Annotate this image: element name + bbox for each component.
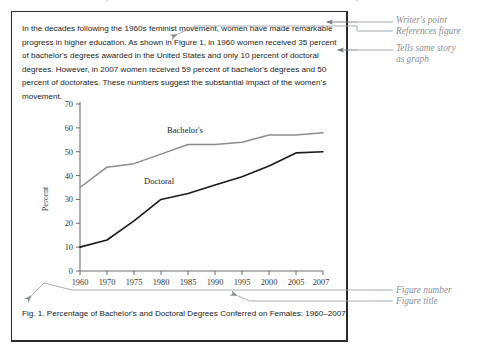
svg-text:1990: 1990: [207, 278, 224, 287]
figure-header-label: FIGURE 1-1 Example of a Student Text wit…: [4, 0, 370, 1]
series-label-bachelors: Bachelor's: [167, 125, 204, 135]
svg-text:2007: 2007: [313, 278, 330, 287]
svg-text:30: 30: [65, 195, 73, 204]
series-label-doctoral: Doctoral: [144, 176, 175, 186]
figure-header-strip: FIGURE 1-1 Example of a Student Text wit…: [0, 0, 482, 9]
svg-text:1980: 1980: [153, 278, 170, 287]
body-paragraph: In the decades following the 1960s femin…: [22, 22, 340, 104]
svg-text:10: 10: [65, 243, 73, 252]
svg-text:1960: 1960: [72, 278, 89, 287]
svg-text:1975: 1975: [126, 278, 143, 287]
annotation-figure-number: Figure number: [396, 285, 452, 296]
svg-text:60: 60: [65, 124, 73, 133]
annotation-tells-same-story: Tells same story as graph: [396, 43, 456, 66]
screenshot-root: FIGURE 1-1 Example of a Student Text wit…: [0, 0, 482, 352]
svg-text:2005: 2005: [288, 278, 305, 287]
y-axis-title: Percent: [41, 186, 50, 211]
figure-chart: 0 10 20 30 40 50 60 70 Per: [34, 94, 334, 292]
svg-text:40: 40: [65, 172, 73, 181]
svg-text:20: 20: [65, 219, 73, 228]
line-chart-svg: 0 10 20 30 40 50 60 70 Per: [34, 94, 334, 292]
y-axis-ticks: 0 10 20 30 40 50 60 70: [65, 100, 80, 276]
svg-text:50: 50: [65, 148, 73, 157]
svg-text:1970: 1970: [99, 278, 116, 287]
series-line-bachelors: [80, 133, 323, 188]
svg-text:70: 70: [65, 100, 73, 109]
svg-text:1995: 1995: [234, 278, 251, 287]
annotation-figure-title: Figure title: [396, 296, 438, 307]
student-text-box: In the decades following the 1960s femin…: [11, 11, 348, 342]
x-axis-ticks: 1960 1970 1975 1980 1985 1990 1995 2000: [72, 271, 330, 287]
figure-caption: Fig. 1. Percentage of Bachelor's and Doc…: [22, 309, 342, 318]
svg-text:0: 0: [69, 267, 73, 276]
svg-text:1985: 1985: [180, 278, 197, 287]
svg-text:2000: 2000: [261, 278, 278, 287]
annotation-writers-point: Writer's point References figure: [396, 15, 461, 38]
